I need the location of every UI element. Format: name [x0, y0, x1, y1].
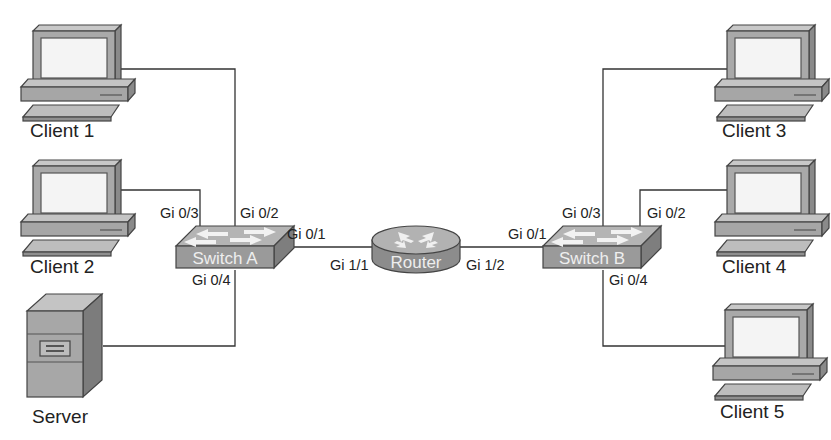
- switch-b-port-gi03: Gi 0/3: [562, 205, 601, 221]
- switch-b-port-gi02: Gi 0/2: [647, 205, 686, 221]
- switch-a-label: Switch A: [192, 249, 258, 268]
- server-label: Server: [32, 406, 89, 427]
- switch-b-label: Switch B: [559, 249, 625, 268]
- router-label: Router: [390, 253, 441, 272]
- server-icon: [27, 294, 102, 397]
- workstation-icon: [21, 25, 135, 121]
- network-diagram: Client 1 Client 2 Server Switch A Gi 0/3…: [0, 0, 831, 440]
- switch-a-port-gi03: Gi 0/3: [160, 205, 199, 221]
- switch-a[interactable]: Switch A: [176, 226, 294, 268]
- server[interactable]: [27, 294, 102, 397]
- workstation-icon: [715, 25, 829, 121]
- client-5-label: Client 5: [720, 401, 784, 422]
- client-3[interactable]: [715, 25, 829, 121]
- client-2-label: Client 2: [30, 256, 94, 277]
- router[interactable]: Router: [372, 226, 460, 273]
- router-port-gi11: Gi 1/1: [330, 257, 369, 273]
- workstation-icon: [715, 160, 829, 256]
- client-4[interactable]: [715, 160, 829, 256]
- switch-a-port-gi02: Gi 0/2: [240, 205, 279, 221]
- switch-b-port-gi01: Gi 0/1: [508, 226, 547, 242]
- workstation-icon: [21, 160, 135, 256]
- switch-b-port-gi04: Gi 0/4: [609, 272, 648, 288]
- switch-b[interactable]: Switch B: [543, 226, 661, 268]
- client-2[interactable]: [21, 160, 135, 256]
- client-1-label: Client 1: [30, 120, 94, 141]
- client-5[interactable]: [713, 304, 827, 400]
- client-3-label: Client 3: [722, 120, 786, 141]
- switch-a-port-gi01: Gi 0/1: [287, 226, 326, 242]
- client-4-label: Client 4: [722, 256, 787, 277]
- client-1[interactable]: [21, 25, 135, 121]
- router-port-gi12: Gi 1/2: [466, 257, 505, 273]
- switch-a-port-gi04: Gi 0/4: [192, 272, 231, 288]
- workstation-icon: [713, 304, 827, 400]
